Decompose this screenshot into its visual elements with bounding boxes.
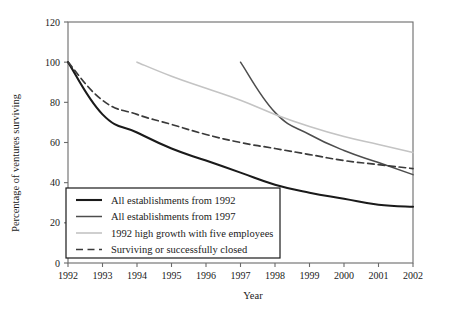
x-tick-label: 2000 [334,270,354,281]
x-tick-label: 1994 [127,270,147,281]
figure-container: 020406080100120 199219931994199519961997… [0,0,457,309]
chart-legend: All establishments from 1992All establis… [66,188,280,258]
x-tick-label: 1999 [300,270,320,281]
x-tick-label: 1995 [162,270,182,281]
x-tick-label: 1997 [231,270,251,281]
x-axis-title: Year [243,290,263,301]
legend-label: 1992 high growth with five employees [111,228,273,239]
x-tick-label: 2001 [369,270,389,281]
x-tick-label: 1998 [265,270,285,281]
y-tick-label: 60 [50,137,60,148]
y-tick-label: 120 [45,17,60,28]
x-tick-label: 1996 [196,270,216,281]
x-tick-label: 2002 [403,270,423,281]
x-tick-label: 1993 [93,270,113,281]
legend-label: All establishments from 1992 [111,195,236,206]
y-axis-title: Percentage of ventures surviving [10,93,21,232]
y-tick-label: 100 [45,57,60,68]
y-tick-label: 0 [55,258,60,269]
survival-rate-line-chart: 020406080100120 199219931994199519961997… [0,0,457,309]
legend-label: Surviving or successfully closed [111,244,248,255]
y-tick-label: 20 [50,217,60,228]
x-tick-label: 1992 [58,270,78,281]
y-tick-label: 40 [50,177,60,188]
y-tick-label: 80 [50,97,60,108]
legend-label: All establishments from 1997 [111,211,236,222]
